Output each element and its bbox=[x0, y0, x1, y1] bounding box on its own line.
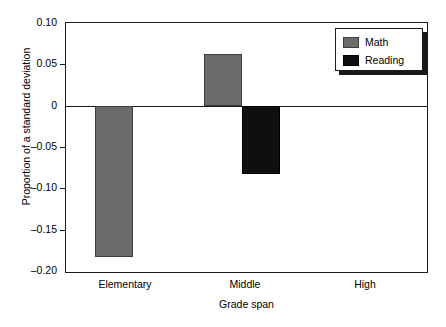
legend-item-math[interactable]: Math bbox=[343, 34, 422, 50]
chart-legend: Math Reading bbox=[335, 28, 423, 71]
y-axis-tick-label: 0 bbox=[11, 100, 57, 111]
x-axis-tick-label: High bbox=[305, 279, 425, 290]
y-axis-tick bbox=[60, 230, 66, 231]
y-axis-tick bbox=[60, 64, 66, 65]
legend-item-reading[interactable]: Reading bbox=[343, 52, 422, 68]
x-axis-tick-label: Elementary bbox=[65, 279, 185, 290]
bar-chart-figure: Proportion of a standard deviation 0.100… bbox=[0, 0, 446, 327]
y-axis-tick-label: –0.20 bbox=[11, 265, 57, 276]
legend-swatch-reading bbox=[343, 55, 359, 66]
y-axis-tick-label: –0.05 bbox=[11, 141, 57, 152]
y-axis-tick bbox=[60, 147, 66, 148]
y-axis-tick bbox=[60, 188, 66, 189]
bar-middle-reading[interactable] bbox=[242, 106, 280, 175]
y-axis-tick-label: 0.05 bbox=[11, 58, 57, 69]
y-axis-tick-label: 0.10 bbox=[11, 17, 57, 28]
y-axis-tick-label: –0.15 bbox=[11, 224, 57, 235]
bar-middle-math[interactable] bbox=[204, 54, 242, 105]
x-axis-title: Grade span bbox=[65, 299, 428, 310]
legend-label-reading: Reading bbox=[365, 55, 404, 66]
bar-elementary-math[interactable] bbox=[95, 106, 133, 257]
x-axis-tick-label: Middle bbox=[185, 279, 305, 290]
legend-label-math: Math bbox=[365, 37, 388, 48]
legend-swatch-math bbox=[343, 37, 359, 48]
y-axis-tick-label: –0.10 bbox=[11, 182, 57, 193]
